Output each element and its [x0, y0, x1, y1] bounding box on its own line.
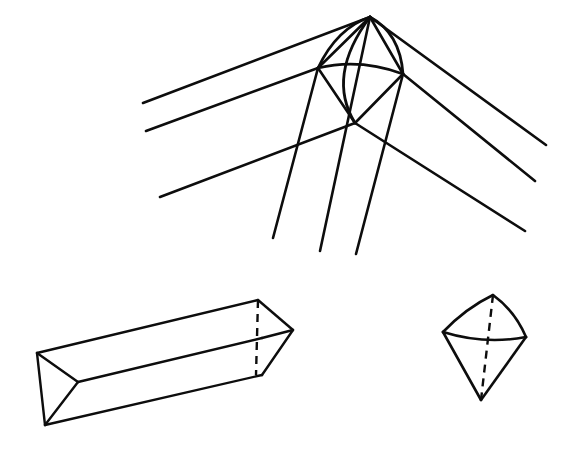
bipyramid-bottom-left-edge: [443, 332, 481, 400]
prism-crystal-group: [37, 300, 293, 425]
figure-root: Crystal refraction ray diagram with two …: [0, 0, 574, 453]
ray-lower-right: [355, 123, 525, 231]
prism-hidden-cross-section-line: [256, 300, 258, 375]
bipyramid-girdle-arc: [443, 332, 526, 340]
chord-apex-to-left-vertex: [318, 17, 370, 68]
ray-down-left: [273, 68, 318, 238]
prism-left-cap-edge: [37, 353, 45, 425]
prism-left-face-upper-edge: [37, 353, 78, 382]
ray-middle-left: [146, 68, 318, 131]
bipyramid-top-left-edge: [443, 295, 493, 332]
ray-down-right: [356, 74, 403, 254]
prism-mid-left-edge: [78, 338, 262, 382]
ray-lower-left: [160, 123, 355, 197]
bipyramid-crystal-group: [443, 295, 526, 400]
descending-rays-group: [273, 17, 403, 254]
ray-diagram-group: [143, 17, 546, 254]
prism-top-left-edge: [37, 300, 258, 353]
prism-right-upper-face-edge: [258, 300, 293, 330]
outgoing-rays-group: [355, 17, 546, 231]
crystal-optics-figure: Crystal refraction ray diagram with two …: [0, 0, 574, 453]
incoming-rays-group: [143, 17, 370, 197]
bipyramid-top-right-edge: [493, 295, 526, 337]
bipyramid-bottom-right-edge: [481, 337, 526, 400]
arc-left-to-right-vertex: [318, 64, 403, 74]
